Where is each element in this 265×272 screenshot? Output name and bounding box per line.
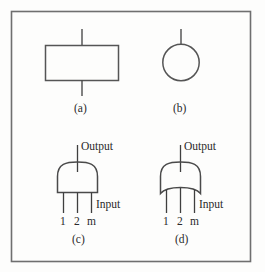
panel-d-caption: (d) [175, 234, 188, 246]
panel-c-pin-1: 1 [60, 216, 66, 228]
panel-a-symbol [46, 29, 119, 96]
panel-c-output-label: Output [81, 141, 113, 153]
panel-d-pin-1: 1 [163, 216, 169, 228]
panel-d-pin-2: 2 [177, 216, 183, 228]
figure-frame [12, 12, 251, 262]
panel-d-output-label: Output [184, 141, 216, 153]
panel-d-pin-m: m [190, 216, 199, 228]
panel-a-caption: (a) [74, 103, 87, 115]
rect-block-body [46, 46, 119, 81]
panel-c-pin-2: 2 [74, 216, 80, 228]
panel-c-symbol [58, 145, 98, 213]
panel-c-input-label: Input [96, 199, 120, 211]
panel-d-input-label: Input [199, 199, 223, 211]
panel-c-pin-m: m [87, 216, 96, 228]
panel-d-symbol [161, 145, 201, 213]
panel-b-caption: (b) [173, 103, 186, 115]
figure-drawing [0, 0, 265, 272]
panel-c-caption: (c) [72, 234, 85, 246]
figure-container: (a) (b) Output Input 1 2 m (c) Output In… [0, 0, 265, 272]
circle-block-body [163, 44, 199, 80]
panel-b-symbol [163, 29, 199, 81]
